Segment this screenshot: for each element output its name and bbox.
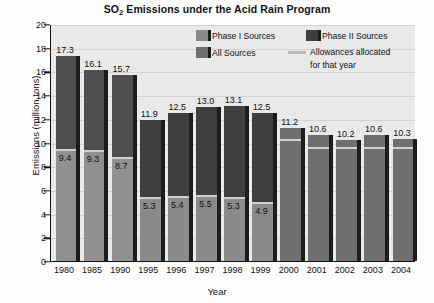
y-tick-label: 12 <box>24 115 46 125</box>
bar-side-shadow <box>357 140 361 261</box>
legend-label-allowances-line2: for that year <box>310 60 356 70</box>
allowance-line-1997 <box>196 195 217 197</box>
gridline <box>51 25 415 26</box>
allowance-line-1990 <box>112 157 133 159</box>
bar-top-label-1980: 17.3 <box>49 45 82 55</box>
allowance-label-1999: 4.9 <box>245 206 278 216</box>
y-tick-label: 4 <box>24 210 46 220</box>
y-tick-mark <box>44 143 50 144</box>
allowance-line-2000 <box>280 139 301 141</box>
bar-1995[interactable] <box>140 120 161 261</box>
y-tick-label: 8 <box>24 162 46 172</box>
bar-side-shadow <box>161 120 165 261</box>
bar-segment-below-allowance <box>308 148 329 261</box>
bar-2004[interactable] <box>393 139 414 261</box>
bar-segment-above-allowance <box>56 56 77 150</box>
bar-2002[interactable] <box>336 140 357 261</box>
bar-segment-above-allowance <box>112 75 133 158</box>
y-tick-mark <box>44 24 50 25</box>
bar-1998[interactable] <box>224 106 245 261</box>
allowance-line-2004 <box>393 147 414 149</box>
legend-label-all-sources: All Sources <box>212 48 255 58</box>
y-tick-label: 20 <box>24 20 46 30</box>
legend-item-phase-2-sources[interactable]: Phase II Sources <box>306 30 387 41</box>
legend-item-all-sources[interactable]: All Sources <box>196 47 255 58</box>
legend-item-allowances[interactable]: Allowances allocated <box>288 47 390 57</box>
y-tick-mark <box>44 238 50 239</box>
bar-segment-above-allowance <box>140 120 161 198</box>
bar-segment-above-allowance <box>168 113 189 197</box>
legend-swatch-phase-2-icon <box>306 30 318 41</box>
chart-title-subscript: 2 <box>119 8 123 17</box>
allowance-line-1996 <box>168 196 189 198</box>
y-tick-mark <box>44 72 50 73</box>
y-tick-label: 10 <box>24 139 46 149</box>
legend-swatch-phase-1-icon <box>196 30 208 41</box>
bar-1985[interactable] <box>84 70 105 261</box>
y-tick-mark <box>44 119 50 120</box>
bar-segment-above-allowance <box>224 106 245 198</box>
bar-side-shadow <box>189 113 193 261</box>
bar-1996[interactable] <box>168 113 189 261</box>
bar-top-label-1999: 12.5 <box>245 102 278 112</box>
legend-swatch-all-sources-icon <box>196 47 208 58</box>
y-tick-mark <box>44 214 50 215</box>
y-tick-label: 6 <box>24 186 46 196</box>
legend-label-allowances: Allowances allocated <box>310 47 390 57</box>
x-tick-label-2004: 2004 <box>384 265 418 275</box>
bar-segment-below-allowance <box>56 150 77 261</box>
y-tick-mark <box>44 166 50 167</box>
bar-1997[interactable] <box>196 107 217 261</box>
bar-segment-above-allowance <box>196 107 217 196</box>
x-axis-label: Year <box>0 286 434 297</box>
legend-row-1: Phase I Sources Phase II Sources <box>196 29 421 46</box>
bar-side-shadow <box>413 139 417 261</box>
bar-side-shadow <box>273 113 277 261</box>
y-tick-label: 0 <box>24 257 46 267</box>
bar-side-shadow <box>329 135 333 261</box>
chart-title-rest: Emissions under the Acid Rain Program <box>123 3 330 15</box>
allowance-line-1999 <box>252 202 273 204</box>
bar-2003[interactable] <box>364 135 385 261</box>
allowance-line-2001 <box>308 147 329 149</box>
chart-title: SO2 Emissions under the Acid Rain Progra… <box>0 3 434 15</box>
legend-item-phase-1-sources[interactable]: Phase I Sources <box>196 30 275 41</box>
allowance-line-1995 <box>140 197 161 199</box>
allowance-label-1990: 8.7 <box>105 161 138 171</box>
legend-label-phase-1: Phase I Sources <box>212 31 275 41</box>
y-tick-label: 14 <box>24 91 46 101</box>
bar-segment-below-allowance <box>393 148 414 261</box>
allowance-line-1980 <box>56 149 77 151</box>
y-tick-mark <box>44 190 50 191</box>
y-tick-mark <box>44 261 50 262</box>
allowance-line-1985 <box>84 150 105 152</box>
bar-top-label-2004: 10.3 <box>386 128 419 138</box>
bar-2000[interactable] <box>280 128 301 261</box>
bar-side-shadow <box>245 106 249 261</box>
bar-2001[interactable] <box>308 135 329 261</box>
bar-segment-below-allowance <box>84 151 105 261</box>
legend-line-allowance-icon <box>288 51 306 54</box>
legend-label-phase-2: Phase II Sources <box>322 31 387 41</box>
y-tick-mark <box>44 95 50 96</box>
y-tick-label: 16 <box>24 67 46 77</box>
y-tick-label: 2 <box>24 233 46 243</box>
legend-row-2: All Sources Allowances allocated for tha… <box>196 46 421 72</box>
bar-segment-below-allowance <box>336 148 357 261</box>
bar-segment-below-allowance <box>280 140 301 261</box>
bar-segment-above-allowance <box>84 70 105 151</box>
allowance-line-2002 <box>336 147 357 149</box>
legend: Phase I Sources Phase II Sources All Sou… <box>196 29 421 72</box>
chart-title-so: SO <box>104 3 119 15</box>
bar-side-shadow <box>301 128 305 261</box>
chart-root: SO2 Emissions under the Acid Rain Progra… <box>0 0 434 303</box>
bar-top-label-1990: 15.7 <box>105 64 138 74</box>
bar-1999[interactable] <box>252 113 273 261</box>
bar-segment-below-allowance <box>112 158 133 261</box>
bar-segment-above-allowance <box>252 113 273 203</box>
bar-segment-below-allowance <box>364 148 385 261</box>
y-tick-label: 18 <box>24 44 46 54</box>
bar-side-shadow <box>217 107 221 261</box>
bar-side-shadow <box>385 135 389 261</box>
allowance-line-1998 <box>224 197 245 199</box>
